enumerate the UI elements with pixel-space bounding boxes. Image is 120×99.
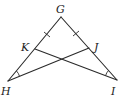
triangle-diagram: G K J H I: [0, 0, 120, 99]
label-h: H: [0, 85, 11, 98]
angle-mark-h: [17, 71, 20, 76]
label-j: J: [92, 41, 99, 54]
label-i: I: [110, 85, 116, 98]
label-g: G: [56, 3, 65, 16]
angle-mark-i: [106, 71, 109, 76]
label-k: K: [20, 41, 30, 54]
